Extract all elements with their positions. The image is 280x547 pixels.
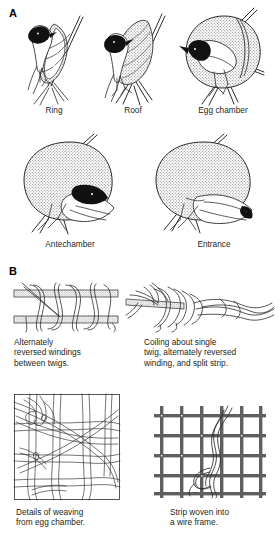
panel-b-letter: B [9, 265, 17, 277]
label-antechamber: Antechamber [14, 240, 126, 250]
panel-a-letter: A [9, 7, 17, 19]
caption-line: between twigs. [14, 358, 136, 368]
illustration-reversed-windings [12, 281, 120, 333]
label-entrance: Entrance [162, 240, 266, 250]
label-roof: Roof [90, 106, 176, 116]
illustration-roof [96, 8, 170, 108]
caption-line: Details of weaving [16, 507, 140, 517]
caption-line: reversed windings [14, 347, 136, 357]
caption-coiling-single-twig: Coiling about single twig, alternately r… [144, 337, 280, 368]
caption-line: from egg chamber. [16, 517, 140, 527]
caption-line: Strip woven into [170, 507, 280, 517]
caption-line: twig, alternately reversed [144, 347, 280, 357]
label-egg-chamber: Egg chamber [168, 106, 278, 116]
illustration-entrance [152, 134, 264, 238]
illustration-antechamber [18, 134, 124, 238]
caption-reversed-windings: Alternately reversed windings between tw… [14, 337, 136, 368]
caption-line: Coiling about single [144, 337, 280, 347]
figure-root: A [0, 0, 280, 547]
illustration-weaving-details [14, 394, 120, 500]
caption-line: winding, and split strip. [144, 358, 280, 368]
illustration-coiling-single-twig [124, 281, 276, 333]
illustration-wire-frame [154, 406, 266, 498]
label-ring: Ring [8, 106, 100, 116]
caption-wire-frame: Strip woven into a wire frame. [170, 507, 280, 528]
caption-line: Alternately [14, 337, 136, 347]
caption-weaving-details: Details of weaving from egg chamber. [16, 507, 140, 528]
illustration-ring [18, 8, 90, 108]
caption-line: a wire frame. [170, 517, 280, 527]
illustration-egg-chamber [176, 6, 272, 108]
